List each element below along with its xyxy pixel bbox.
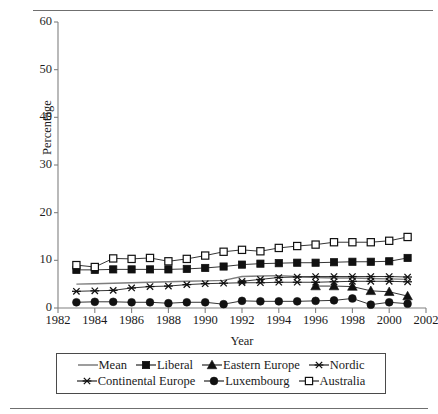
marker-filled-square xyxy=(349,258,356,265)
marker-open-square xyxy=(294,242,301,249)
marker-filled-square xyxy=(312,259,319,266)
legend-row: Continental EuropeLuxembourgAustralia xyxy=(63,373,379,389)
marker-asterisk-cross xyxy=(314,362,323,368)
marker-filled-circle xyxy=(349,295,357,303)
legend-label: Continental Europe xyxy=(98,375,196,388)
marker-filled-square xyxy=(367,258,374,265)
marker-asterisk-cross xyxy=(256,276,265,282)
marker-open-square xyxy=(330,239,337,246)
marker-open-square xyxy=(404,233,411,240)
marker-filled-circle xyxy=(293,297,301,305)
marker-asterisk-cross xyxy=(109,287,118,293)
marker-open-square xyxy=(257,248,264,255)
legend-item-mean: Mean xyxy=(78,359,127,372)
legend-label: Eastern Europe xyxy=(223,359,300,372)
legend-marker-open-square-icon xyxy=(299,375,319,387)
marker-filled-circle xyxy=(275,297,283,305)
legend-marker-filled-square-icon xyxy=(136,359,156,371)
marker-filled-square xyxy=(142,361,149,368)
marker-asterisk-cross xyxy=(146,283,155,289)
marker-filled-circle xyxy=(220,300,228,308)
marker-filled-square xyxy=(128,266,135,273)
marker-asterisk-cross xyxy=(164,283,173,289)
series-luxembourg xyxy=(73,295,412,309)
marker-open-square xyxy=(183,255,190,262)
marker-filled-square xyxy=(275,260,282,267)
marker-filled-square xyxy=(238,261,245,268)
marker-filled-circle xyxy=(165,299,173,307)
x-axis-tick-labels: 1982198419861988199019921994199619982000… xyxy=(0,314,438,334)
bottom-divider-rule xyxy=(10,408,428,409)
marker-open-square xyxy=(146,254,153,261)
marker-open-square xyxy=(305,377,312,384)
marker-filled-circle xyxy=(312,297,320,305)
legend-item-continental-europe: Continental Europe xyxy=(77,375,196,388)
marker-asterisk-cross xyxy=(127,285,136,291)
marker-asterisk-cross xyxy=(403,279,412,285)
marker-filled-circle xyxy=(257,297,265,305)
marker-filled-square xyxy=(146,266,153,273)
marker-filled-circle xyxy=(183,298,191,306)
marker-filled-square xyxy=(110,266,117,273)
marker-filled-square xyxy=(183,265,190,272)
marker-open-square xyxy=(367,239,374,246)
marker-filled-circle xyxy=(330,296,338,304)
legend-label: Liberal xyxy=(157,359,193,372)
legend-marker-filled-circle-icon xyxy=(204,375,224,387)
marker-open-square xyxy=(238,246,245,253)
legend-item-australia: Australia xyxy=(299,375,366,388)
marker-asterisk-cross xyxy=(293,279,302,285)
plot-area xyxy=(58,22,426,308)
legend-label: Nordic xyxy=(330,359,365,372)
marker-filled-circle xyxy=(73,298,81,306)
marker-filled-circle xyxy=(146,298,154,306)
marker-filled-circle xyxy=(404,300,412,308)
marker-filled-circle xyxy=(238,297,246,305)
legend-marker-asterisk-cross-icon xyxy=(309,359,329,371)
marker-asterisk-cross xyxy=(82,378,91,384)
marker-filled-square xyxy=(404,254,411,261)
marker-asterisk-cross xyxy=(311,273,320,279)
chart-legend: MeanLiberalEastern EuropeNordicContinent… xyxy=(56,353,386,394)
marker-open-square xyxy=(128,255,135,262)
top-divider-rule xyxy=(33,10,433,11)
marker-open-square xyxy=(110,255,117,262)
marker-filled-square xyxy=(294,259,301,266)
legend-label: Luxembourg xyxy=(225,375,289,388)
marker-filled-circle xyxy=(210,377,218,385)
legend-label: Australia xyxy=(320,375,366,388)
y-axis-tick-label: 20 xyxy=(26,206,52,219)
legend-marker-none-icon xyxy=(78,359,98,371)
plot-svg xyxy=(58,22,426,308)
marker-open-square xyxy=(312,241,319,248)
legend-item-eastern-europe: Eastern Europe xyxy=(202,359,300,372)
marker-asterisk-cross xyxy=(182,281,191,287)
marker-filled-circle xyxy=(201,298,209,306)
legend-item-nordic: Nordic xyxy=(309,359,365,372)
marker-filled-square xyxy=(220,263,227,270)
marker-open-square xyxy=(165,258,172,265)
legend-marker-filled-triangle-icon xyxy=(202,359,222,371)
marker-asterisk-cross xyxy=(90,288,99,294)
legend-label: Mean xyxy=(99,359,127,372)
marker-filled-square xyxy=(202,264,209,271)
y-axis-tick-label: 10 xyxy=(26,253,52,266)
figure-container: 0102030405060 Percentage 198219841986198… xyxy=(0,0,438,414)
marker-open-square xyxy=(349,239,356,246)
x-axis-tick-label: 2002 xyxy=(404,314,438,327)
legend-item-liberal: Liberal xyxy=(136,359,193,372)
marker-open-square xyxy=(73,262,80,269)
marker-filled-square xyxy=(386,258,393,265)
marker-asterisk-cross xyxy=(256,280,265,286)
legend-item-luxembourg: Luxembourg xyxy=(204,375,289,388)
marker-filled-square xyxy=(257,260,264,267)
legend-marker-asterisk-cross-icon xyxy=(77,375,97,387)
series-eastern-europe xyxy=(311,281,413,300)
marker-open-square xyxy=(386,237,393,244)
marker-asterisk-cross xyxy=(274,279,283,285)
marker-open-square xyxy=(275,244,282,251)
x-axis-title: Year xyxy=(58,334,426,349)
marker-open-square xyxy=(91,263,98,270)
marker-filled-circle xyxy=(367,301,375,309)
marker-open-square xyxy=(202,252,209,259)
